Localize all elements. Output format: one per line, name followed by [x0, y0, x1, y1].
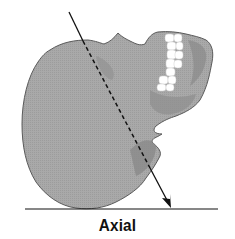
ray-entry-segment — [69, 12, 83, 41]
skull-shape — [22, 32, 213, 209]
arrowhead-icon — [162, 194, 171, 208]
axial-projection-diagram: Axial — [0, 0, 235, 239]
skull-illustration — [0, 0, 235, 239]
caption-label: Axial — [12, 216, 224, 236]
